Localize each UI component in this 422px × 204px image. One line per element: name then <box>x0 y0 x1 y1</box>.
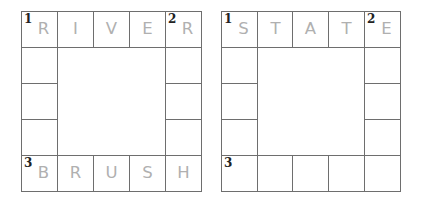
cell-letter: B <box>29 164 59 182</box>
grid-cell[interactable]: T <box>257 11 294 48</box>
grid-cell[interactable]: V <box>93 11 130 48</box>
cell-letter: S <box>128 164 167 182</box>
grid-cell[interactable]: S <box>129 155 166 192</box>
grid-cell[interactable] <box>364 83 401 120</box>
grid-cell[interactable] <box>328 155 365 192</box>
cell-letter: A <box>291 20 330 38</box>
cell-letter: V <box>92 20 131 38</box>
grid-cell[interactable] <box>221 83 258 120</box>
grid-cell[interactable]: A <box>292 11 329 48</box>
grid-cell[interactable] <box>21 47 58 84</box>
grid-cell[interactable] <box>165 47 202 84</box>
grid-cell[interactable]: 2 E <box>364 11 401 48</box>
word-grid-left: 1 R I V E 2 R 3 B R U S <box>21 11 201 191</box>
grid-cell[interactable] <box>165 119 202 156</box>
grid-cell[interactable] <box>364 47 401 84</box>
grid-cell[interactable]: 2 R <box>165 11 202 48</box>
grid-cell[interactable] <box>257 155 294 192</box>
clue-number: 3 <box>224 156 232 170</box>
grid-cell[interactable]: 1 S <box>221 11 258 48</box>
cell-letter: U <box>92 164 131 182</box>
cell-letter: S <box>229 20 259 38</box>
grid-cell[interactable] <box>21 119 58 156</box>
cell-letter: T <box>327 20 366 38</box>
cell-letter: T <box>256 20 295 38</box>
cell-letter: R <box>29 20 59 38</box>
cell-letter: E <box>372 20 402 38</box>
cell-letter: E <box>128 20 167 38</box>
grid-cell[interactable] <box>165 83 202 120</box>
grid-cell[interactable]: E <box>129 11 166 48</box>
grid-cell[interactable]: R <box>57 155 94 192</box>
word-grid-right: 1 S T A T 2 E 3 <box>221 11 401 191</box>
cell-letter: R <box>56 164 95 182</box>
grid-cell[interactable]: T <box>328 11 365 48</box>
grid-cell[interactable] <box>221 119 258 156</box>
grid-cell[interactable]: H <box>165 155 202 192</box>
grid-cell[interactable]: 1 R <box>21 11 58 48</box>
grid-cell[interactable]: 3 B <box>21 155 58 192</box>
grid-cell[interactable]: U <box>93 155 130 192</box>
cell-letter: I <box>56 20 95 38</box>
grid-cell[interactable]: 3 <box>221 155 258 192</box>
grid-cell[interactable] <box>21 83 58 120</box>
cell-letter: R <box>173 20 203 38</box>
grid-cell[interactable]: I <box>57 11 94 48</box>
grid-cell[interactable] <box>364 119 401 156</box>
grid-cell[interactable] <box>364 155 401 192</box>
grid-cell[interactable] <box>221 47 258 84</box>
grid-cell[interactable] <box>292 155 329 192</box>
cell-letter: H <box>164 164 203 182</box>
